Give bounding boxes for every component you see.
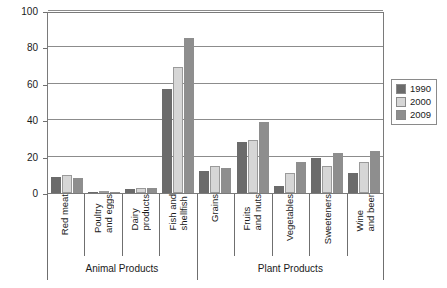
- supergroup-label: Animal Products: [85, 263, 158, 274]
- bar-2000: [173, 67, 183, 193]
- bar-group: [271, 13, 308, 193]
- supergroup-label: Plant Products: [258, 263, 323, 274]
- category-cell: Wine and beer: [347, 194, 384, 256]
- category-separator: [84, 194, 85, 256]
- bar-1990: [237, 142, 247, 193]
- category-label: Wine and beer: [355, 194, 376, 235]
- bar-2000: [285, 173, 295, 193]
- bar-group: [122, 13, 159, 193]
- bar-chart: 020406080100 Red meatPoultry and eggsDai…: [0, 0, 447, 288]
- legend-swatch-icon: [396, 110, 406, 120]
- legend-swatch-icon: [396, 84, 406, 94]
- y-tick-label-0: 0: [0, 189, 38, 199]
- category-label: Grains: [210, 194, 221, 225]
- bar-group: [234, 13, 271, 193]
- plot-area: [47, 12, 384, 194]
- bar-2009: [147, 188, 157, 193]
- category-label: Red meat: [60, 194, 71, 238]
- category-label: Poultry and eggs: [93, 194, 114, 236]
- supergroup-label-cell: Plant Products: [197, 256, 384, 280]
- bar-1990: [125, 189, 135, 193]
- legend-label: 1990: [410, 84, 431, 94]
- bar-2000: [322, 166, 332, 193]
- y-tick-label-40: 40: [0, 116, 38, 126]
- y-tick-label-80: 80: [0, 43, 38, 53]
- category-separator: [309, 194, 310, 256]
- category-cell: Poultry and eggs: [84, 194, 121, 256]
- category-label: Sweeteners: [323, 194, 334, 247]
- category-separator: [234, 194, 235, 256]
- bar-groups: [48, 13, 383, 193]
- supergroup-separator: [383, 194, 384, 280]
- legend-swatch-icon: [396, 97, 406, 107]
- legend-label: 2009: [410, 110, 431, 120]
- category-cell: Vegetables: [272, 194, 309, 256]
- y-tick-label-60: 60: [0, 80, 38, 90]
- bar-2009: [259, 122, 269, 193]
- bar-1990: [311, 158, 321, 193]
- y-tick-label-100: 100: [0, 7, 38, 17]
- bar-2000: [136, 188, 146, 193]
- bar-2000: [62, 175, 72, 193]
- y-tick-label-20: 20: [0, 153, 38, 163]
- bar-2009: [73, 178, 83, 193]
- bar-1990: [88, 192, 98, 193]
- bar-2000: [99, 191, 109, 193]
- bar-1990: [199, 171, 209, 193]
- bar-2009: [110, 192, 120, 193]
- bar-2000: [359, 162, 369, 193]
- bar-group: [197, 13, 234, 193]
- bar-2009: [333, 153, 343, 193]
- category-label: Fish and shellfish: [168, 194, 189, 233]
- bar-2009: [184, 38, 194, 193]
- category-label: Dairy products: [130, 194, 151, 233]
- category-cell: Red meat: [47, 194, 84, 256]
- bar-group: [309, 13, 346, 193]
- category-axis: Red meatPoultry and eggsDairy productsFi…: [47, 194, 384, 256]
- category-label: Vegetables: [285, 194, 296, 244]
- category-separator: [347, 194, 348, 256]
- category-cell: Fish and shellfish: [159, 194, 196, 256]
- bar-1990: [274, 186, 284, 193]
- bar-group: [160, 13, 197, 193]
- bar-2000: [248, 140, 258, 193]
- category-cell: Dairy products: [122, 194, 159, 256]
- legend-item: 1990: [396, 84, 431, 94]
- bar-group: [346, 13, 383, 193]
- supergroup-axis: Animal ProductsPlant Products: [47, 256, 384, 280]
- category-cell: Fruits and nuts: [234, 194, 271, 256]
- bar-2009: [370, 151, 380, 193]
- supergroup-label-cell: Animal Products: [47, 256, 197, 280]
- category-separator: [272, 194, 273, 256]
- category-cell: Grains: [197, 194, 234, 256]
- supergroup-separator: [47, 194, 48, 280]
- bar-1990: [348, 173, 358, 193]
- category-separator: [122, 194, 123, 256]
- category-cell: Sweeteners: [309, 194, 346, 256]
- bar-1990: [162, 89, 172, 193]
- bar-1990: [51, 177, 61, 193]
- bar-2009: [296, 162, 306, 193]
- legend-label: 2000: [410, 97, 431, 107]
- bar-2009: [221, 168, 231, 193]
- category-label: Fruits and nuts: [242, 194, 263, 233]
- supergroup-separator: [197, 194, 198, 280]
- legend: 199020002009: [391, 79, 437, 125]
- gridline-100: [48, 10, 383, 11]
- legend-item: 2009: [396, 110, 431, 120]
- bar-2000: [210, 166, 220, 193]
- bar-group: [85, 13, 122, 193]
- legend-item: 2000: [396, 97, 431, 107]
- category-separator: [159, 194, 160, 256]
- bar-group: [48, 13, 85, 193]
